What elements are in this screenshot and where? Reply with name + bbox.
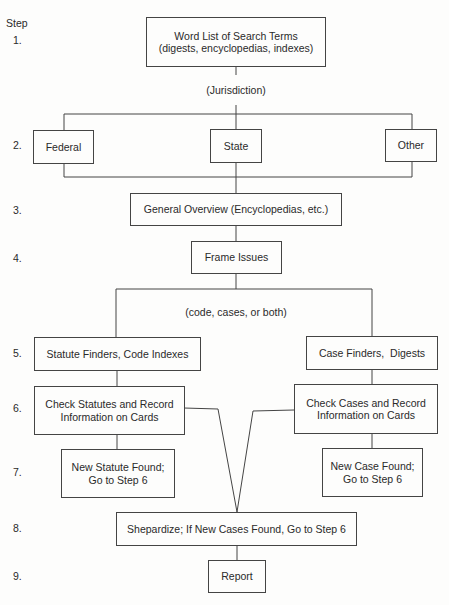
legal-research-flowchart: Step 1. 2. 3. 4. 5. 6. 7. 8. 9. Word Lis… [0,0,449,605]
node-shepardize: Shepardize; If New Cases Found, Go to St… [116,512,357,546]
step-number-5: 5. [13,347,22,359]
step-number-1: 1. [13,34,22,46]
node-state: State [210,129,262,163]
node-case-finders: Case Finders, Digests [306,336,438,370]
node-new-case: New Case Found; Go to Step 6 [322,448,423,497]
step-number-6: 6. [13,402,22,414]
step-number-7: 7. [13,466,22,478]
node-word-list: Word List of Search Terms (digests, ency… [146,17,326,67]
node-word-list-line1: Word List of Search Terms [174,30,297,43]
step-header: Step [6,17,28,29]
step-number-3: 3. [13,204,22,216]
node-new-statute: New Statute Found; Go to Step 6 [61,449,175,498]
node-check-cases-line1: Check Cases and Record [306,397,426,410]
node-new-case-line1: New Case Found; [330,460,414,473]
node-new-case-line2: Go to Step 6 [343,473,402,486]
step-number-8: 8. [13,522,22,534]
node-report: Report [208,560,266,593]
node-new-statute-line1: New Statute Found; [72,461,165,474]
step-number-2: 2. [13,139,22,151]
node-federal: Federal [33,130,94,164]
node-general-overview: General Overview (Encyclopedias, etc.) [130,193,342,226]
annotation-code-cases: (code, cases, or both) [176,306,296,318]
node-word-list-line2: (digests, encyclopedias, indexes) [159,42,314,55]
node-check-statutes-line1: Check Statutes and Record [45,398,173,411]
step-number-9: 9. [13,570,22,582]
node-statute-finders: Statute Finders, Code Indexes [34,337,201,371]
node-check-statutes: Check Statutes and Record Information on… [34,386,185,435]
node-check-cases: Check Cases and Record Information on Ca… [294,384,438,434]
annotation-jurisdiction: (Jurisdiction) [186,84,286,96]
step-number-4: 4. [13,252,22,264]
node-other: Other [385,129,437,162]
node-frame-issues: Frame Issues [191,241,282,274]
node-new-statute-line2: Go to Step 6 [89,474,148,487]
node-check-cases-line2: Information on Cards [317,409,415,422]
node-check-statutes-line2: Information on Cards [60,411,158,424]
